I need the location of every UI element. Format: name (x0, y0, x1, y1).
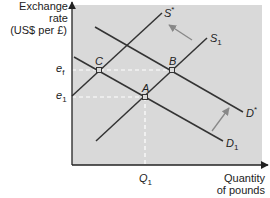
y-axis-label: Exchange rate (US$ per £) (0, 0, 68, 36)
x-axis-label: Quantity of pounds (217, 172, 265, 196)
x-axis-label-line2: of pounds (217, 184, 265, 196)
x-axis-label-line1: Quantity (217, 172, 265, 184)
d1-label: D1 (226, 137, 238, 152)
ef-tick-label: ef (56, 62, 64, 77)
d-star-label: D* (246, 105, 257, 119)
e1-tick-label: e1 (56, 89, 67, 104)
supply-demand-diagram: Exchange rate (US$ per £) ef e1 Q1 Quant… (0, 0, 270, 198)
point-a-label: A (142, 82, 149, 94)
q1-tick-label: Q1 (139, 172, 152, 187)
point-c-marker (97, 68, 102, 73)
point-b-label: B (169, 55, 176, 67)
s1-label: S1 (210, 32, 222, 47)
point-b-marker (170, 68, 175, 73)
y-axis-label-line1: Exchange rate (19, 0, 68, 24)
point-c-label: C (95, 55, 103, 67)
point-a-marker (143, 95, 148, 100)
y-axis-label-line2: (US$ per £) (0, 24, 68, 36)
s-star-label: S* (164, 5, 174, 19)
